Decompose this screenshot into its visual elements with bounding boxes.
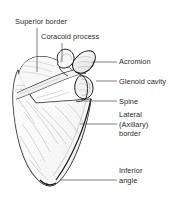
label-coracoid-process: Coracoid process	[41, 32, 99, 42]
bone-body-group	[13, 49, 96, 186]
label-superior-border: Superior border	[15, 17, 67, 27]
label-lateral-line-2: (Axillary)	[119, 120, 148, 130]
scapula-illustration	[0, 0, 174, 203]
label-inferior-angle: Inferior angle	[119, 166, 142, 185]
coracoid-process-shape	[57, 49, 74, 68]
inferior-angle-dot	[46, 183, 48, 185]
label-acromion: Acromion	[119, 57, 151, 67]
label-lateral-line-3: border	[119, 129, 148, 139]
scapula-diagram: Superior border Coracoid process Acromio…	[0, 0, 174, 203]
label-inferior-line-2: angle	[119, 176, 142, 186]
acromion-process	[73, 51, 96, 73]
label-lateral-axillary-border: Lateral (Axillary) border	[119, 110, 148, 139]
label-glenoid-cavity: Glenoid cavity	[119, 77, 166, 87]
label-spine: Spine	[119, 97, 138, 107]
label-lateral-line-1: Lateral	[119, 110, 148, 120]
label-inferior-line-1: Inferior	[119, 166, 142, 176]
